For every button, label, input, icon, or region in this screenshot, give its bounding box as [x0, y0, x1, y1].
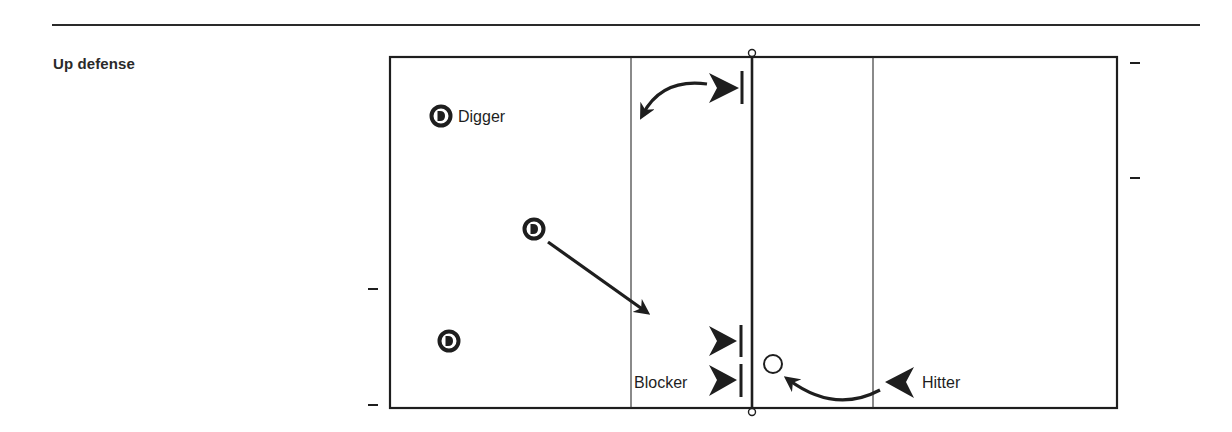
net-post-top-icon [749, 50, 756, 57]
defender-back-icon [440, 332, 459, 351]
defender-digger-icon [432, 107, 451, 126]
defender-middle-icon [525, 220, 544, 239]
blocker-middle-icon [709, 325, 741, 357]
blocker-top-icon [709, 71, 742, 104]
hitter-icon [885, 367, 914, 398]
hitter-label: Hitter [922, 374, 961, 391]
net-post-bottom-icon [749, 409, 756, 416]
blocker-labeled-icon [709, 364, 741, 397]
blocker-drop-arrow-icon [643, 83, 707, 114]
digger-label: Digger [458, 108, 506, 125]
hitter-approach-arrow-icon [789, 380, 880, 400]
court-diagram: Digger Blocker Hitter [0, 0, 1232, 432]
ball-icon [764, 355, 782, 373]
blocker-label: Blocker [634, 374, 688, 391]
